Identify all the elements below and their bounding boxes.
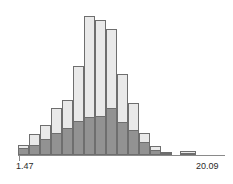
histogram-bar-subgroup <box>73 121 84 155</box>
histogram-bar-subgroup <box>139 142 150 155</box>
x-axis-max-label: 20.09 <box>196 161 219 171</box>
histogram-bar-subgroup <box>117 122 128 155</box>
plot-area <box>0 0 233 184</box>
histogram-figure: 1.47 20.09 <box>0 0 233 184</box>
histogram-bar-subgroup <box>106 108 117 155</box>
histogram-bar-subgroup <box>18 148 29 155</box>
histogram-bar-subgroup <box>40 139 51 155</box>
x-axis-line <box>18 155 225 156</box>
histogram-bar-subgroup <box>84 117 95 155</box>
histogram-bar-subgroup <box>51 133 62 155</box>
histogram-bar-subgroup <box>95 116 106 155</box>
x-axis-min-label: 1.47 <box>16 161 34 171</box>
histogram-bar-subgroup <box>29 145 40 155</box>
histogram-bar-subgroup <box>62 128 73 155</box>
histogram-bar-subgroup <box>128 130 139 155</box>
